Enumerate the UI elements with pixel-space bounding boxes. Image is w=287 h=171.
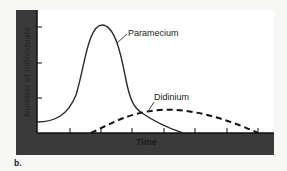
predator-prey-figure: Number of Individuals Time Paramecium Di… <box>0 0 287 171</box>
y-axis-label: Number of Individuals <box>17 10 36 134</box>
paramecium-label: Paramecium <box>128 28 179 38</box>
x-axis-label: Time <box>136 137 157 147</box>
panel-label: b. <box>14 158 22 168</box>
didinium-label: Didinium <box>154 92 189 102</box>
